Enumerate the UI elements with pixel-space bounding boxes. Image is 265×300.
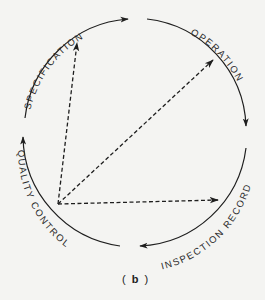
arc-inspection-to-quality-control	[140, 148, 246, 246]
dashed-arrow-to-specification	[58, 43, 77, 204]
arc-quality-control-to-specification	[23, 137, 120, 246]
figure-caption: ( b )	[122, 273, 148, 285]
label-quality-control: QUALITY CONTROL	[16, 150, 73, 250]
label-specification: SPECIFICATION	[22, 30, 86, 111]
dashed-arrow-to-inspection-record	[58, 200, 218, 204]
label-inspection-record: INSPECTION RECORD	[160, 182, 254, 272]
quality-cycle-diagram: SPECIFICATION OPERATION INSPECTION RECOR…	[0, 0, 265, 300]
label-operation: OPERATION	[189, 26, 246, 84]
dashed-arrow-to-operation	[58, 60, 213, 204]
